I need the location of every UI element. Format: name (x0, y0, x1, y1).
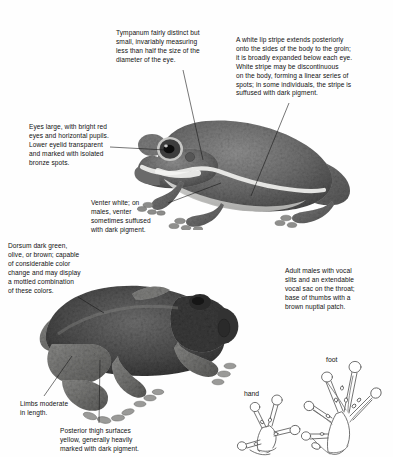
callout-tympanum: Tympanum fairly distinct but small, inva… (116, 29, 234, 65)
callout-posterior-thigh: Posterior thigh surfaces yellow, general… (60, 427, 190, 454)
species-account-plate: Tympanum fairly distinct but small, inva… (0, 0, 393, 457)
callout-eyes: Eyes large, with bright red eyes and hor… (29, 123, 137, 168)
label-hand: hand (244, 389, 259, 398)
callout-venter: Venter white; on males, venter sometimes… (91, 199, 173, 235)
callout-vocal: Adult males with vocal slits and an exte… (285, 267, 385, 312)
foot-line-drawing (300, 358, 388, 457)
hand-line-drawing (236, 388, 308, 457)
callout-dorsum: Dorsum dark green, olive, or brown; capa… (8, 242, 94, 295)
callout-limbs: Limbs moderate in length. (20, 400, 100, 418)
callout-lip-stripe: A white lip stripe extends posteriorly o… (236, 36, 393, 98)
label-foot: foot (326, 355, 337, 364)
